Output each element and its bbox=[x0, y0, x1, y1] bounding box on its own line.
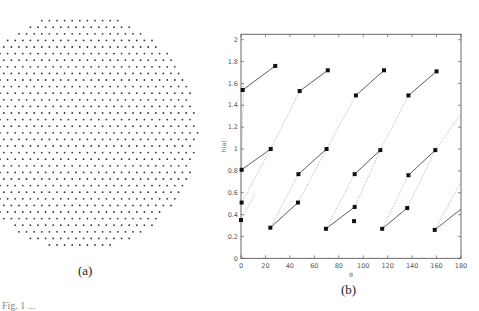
square-marker bbox=[406, 173, 410, 177]
dotted-segment bbox=[435, 182, 461, 230]
dotted-segment bbox=[242, 149, 271, 203]
square-marker bbox=[433, 228, 437, 232]
x-tick-label: 0 bbox=[239, 262, 243, 270]
square-marker bbox=[406, 93, 410, 97]
y-tick-label: 0.8 bbox=[228, 167, 238, 175]
square-marker bbox=[326, 68, 330, 72]
dotted-segment bbox=[382, 175, 408, 229]
y-tick-label: 0 bbox=[234, 255, 238, 263]
solid-segment bbox=[242, 149, 271, 170]
y-tick-label: 0.6 bbox=[228, 189, 238, 197]
solid-segment bbox=[355, 150, 381, 174]
square-marker bbox=[353, 172, 357, 176]
panel-a-caption: (a) bbox=[78, 263, 92, 279]
y-tick-label: 0.4 bbox=[228, 211, 238, 219]
solid-segment bbox=[408, 71, 436, 95]
x-tick-label: 20 bbox=[261, 262, 269, 270]
x-tick-label: 60 bbox=[310, 262, 318, 270]
panel-b-caption: (b) bbox=[341, 282, 356, 298]
x-tick-label: 140 bbox=[406, 262, 418, 270]
square-marker bbox=[354, 93, 358, 97]
y-tick-label: 0.2 bbox=[228, 233, 238, 241]
dotted-segment bbox=[380, 95, 408, 150]
solid-segment bbox=[408, 150, 435, 175]
square-marker bbox=[324, 227, 328, 231]
y-tick-label: 1.6 bbox=[228, 80, 238, 88]
dotted-segment bbox=[407, 150, 435, 208]
square-marker bbox=[382, 68, 386, 72]
y-tick-label: 1.2 bbox=[228, 123, 238, 131]
square-marker bbox=[353, 205, 357, 209]
square-marker bbox=[298, 89, 302, 93]
y-tick-label: 2 bbox=[234, 36, 238, 44]
solid-segment bbox=[243, 66, 276, 90]
square-marker bbox=[240, 168, 244, 172]
y-tick-label: 1 bbox=[234, 145, 238, 153]
dotted-segment bbox=[326, 174, 355, 229]
dotted-segment bbox=[298, 149, 327, 203]
x-tick-label: 120 bbox=[381, 262, 393, 270]
square-marker bbox=[296, 172, 300, 176]
square-marker bbox=[241, 88, 245, 92]
dotted-segment bbox=[271, 91, 300, 149]
square-marker bbox=[433, 148, 437, 152]
solid-segment bbox=[356, 70, 384, 95]
solid-segment bbox=[326, 207, 355, 229]
x-tick-label: 180 bbox=[455, 262, 467, 270]
square-marker bbox=[352, 219, 356, 223]
y-axis-label: h(a) bbox=[220, 140, 227, 152]
square-marker bbox=[380, 227, 384, 231]
y-tick-label: 1.4 bbox=[228, 101, 238, 109]
square-marker bbox=[378, 148, 382, 152]
y-tick-label: 1.8 bbox=[228, 58, 238, 66]
dotted-segment bbox=[327, 95, 356, 149]
figure-caption-cutoff: Fig. 1 ... bbox=[2, 300, 35, 311]
solid-segment bbox=[435, 209, 461, 230]
solid-segment bbox=[300, 70, 328, 91]
square-marker bbox=[273, 64, 277, 68]
dotted-segment bbox=[241, 193, 256, 220]
dotted-segment bbox=[435, 114, 461, 150]
dotted-segment bbox=[355, 150, 381, 207]
dotted-segment bbox=[270, 174, 298, 228]
x-axis-label: θ bbox=[349, 271, 353, 278]
x-tick-label: 100 bbox=[357, 262, 369, 270]
square-marker bbox=[325, 147, 329, 151]
solid-segment bbox=[298, 149, 326, 174]
square-marker bbox=[435, 69, 439, 73]
square-marker bbox=[405, 206, 409, 210]
square-marker bbox=[240, 201, 244, 205]
square-marker bbox=[239, 218, 243, 222]
square-marker bbox=[296, 201, 300, 205]
solid-segment bbox=[382, 208, 407, 229]
square-marker bbox=[268, 226, 272, 230]
x-tick-label: 80 bbox=[335, 262, 343, 270]
solid-segment bbox=[270, 203, 298, 228]
square-marker bbox=[269, 147, 273, 151]
x-tick-label: 160 bbox=[430, 262, 442, 270]
x-tick-label: 40 bbox=[286, 262, 294, 270]
